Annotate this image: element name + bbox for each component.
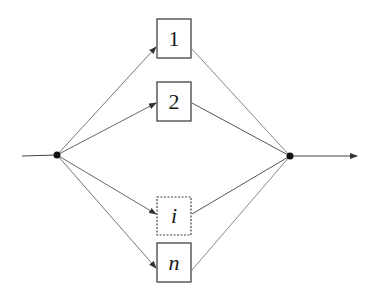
component-box-2: 2 <box>157 82 191 121</box>
edge-input-to-n <box>57 155 156 268</box>
edge-1-to-output <box>192 49 290 156</box>
component-label-i: i <box>171 203 177 228</box>
component-box-n: n <box>157 243 191 282</box>
edge-input-to-i <box>57 155 156 214</box>
output-node-dot <box>287 153 294 160</box>
component-label-n: n <box>169 250 180 275</box>
edge-i-to-output <box>192 156 290 214</box>
edge-2-to-output <box>192 103 290 156</box>
edge-n-to-output <box>192 156 290 270</box>
component-label-2: 2 <box>169 89 180 114</box>
component-label-1: 1 <box>169 26 180 51</box>
edge-input-to-2 <box>57 103 156 155</box>
input-node-dot <box>54 152 61 159</box>
component-box-1: 1 <box>157 19 191 58</box>
edge-input-to-1 <box>57 47 156 155</box>
component-box-i: i <box>157 197 191 235</box>
input-line <box>22 155 57 156</box>
parallel-system-diagram: 1 2 i n <box>0 0 375 299</box>
